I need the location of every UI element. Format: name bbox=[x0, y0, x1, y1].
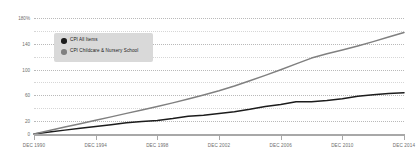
y-axis-tick-label: 60 bbox=[0, 93, 30, 98]
x-axis-tick-mark bbox=[342, 136, 343, 140]
y-axis-tick-label: 20 bbox=[0, 119, 30, 124]
series-line bbox=[34, 93, 404, 134]
y-axis-tick-label: 140 bbox=[0, 41, 30, 46]
y-axis-tick-label: 100 bbox=[0, 67, 30, 72]
line-chart: 180%14010060200 CPI All Items CPI Childc… bbox=[0, 0, 416, 159]
x-axis-tick-label: DEC 1990 bbox=[23, 143, 45, 148]
x-axis-tick-label: DEC 1998 bbox=[146, 143, 168, 148]
x-axis-tick-mark bbox=[157, 136, 158, 140]
legend-item-cpi-all-items: CPI All Items bbox=[61, 38, 98, 44]
x-axis-tick-label: DEC 2014 bbox=[393, 143, 415, 148]
x-axis-tick-mark bbox=[404, 136, 405, 140]
y-axis-tick-label: 0 bbox=[0, 132, 30, 137]
chart-legend: CPI All Items CPI Childcare & Nursery Sc… bbox=[54, 33, 153, 62]
legend-color-swatch-icon bbox=[61, 38, 67, 44]
x-axis-tick-label: DEC 1994 bbox=[84, 143, 106, 148]
x-axis-tick-mark bbox=[219, 136, 220, 140]
legend-item-cpi-childcare-nursery-school: CPI Childcare & Nursery School bbox=[61, 49, 138, 55]
legend-color-swatch-icon bbox=[61, 49, 67, 55]
x-axis-tick-mark bbox=[281, 136, 282, 140]
x-axis-tick-mark bbox=[96, 136, 97, 140]
x-axis-tick-label: DEC 2010 bbox=[331, 143, 353, 148]
x-axis-tick-label: DEC 2006 bbox=[269, 143, 291, 148]
y-axis-tick-label: 180% bbox=[0, 16, 30, 21]
legend-label: CPI All Items bbox=[70, 38, 98, 43]
x-axis-tick-label: DEC 2002 bbox=[208, 143, 230, 148]
legend-label: CPI Childcare & Nursery School bbox=[70, 49, 138, 54]
x-axis-tick-mark bbox=[34, 136, 35, 140]
